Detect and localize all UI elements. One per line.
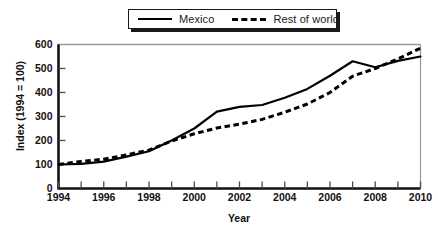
x-tick-label: 1996 [84, 191, 124, 203]
y-tick-label: 100 [23, 158, 53, 170]
x-tick-label: 2006 [310, 191, 350, 203]
x-tick-label: 2002 [220, 191, 260, 203]
x-tick-label: 1994 [39, 191, 79, 203]
x-tick-label: 2004 [265, 191, 305, 203]
y-tick-label: 600 [23, 38, 53, 50]
x-tick-label: 1998 [129, 191, 169, 203]
chart-figure: Mexico Rest of world Index (1994 = 100) … [0, 0, 438, 234]
x-tick-label: 2010 [401, 191, 438, 203]
x-tick-label: 2008 [355, 191, 395, 203]
y-tick-label: 400 [23, 86, 53, 98]
y-tick-label: 200 [23, 134, 53, 146]
y-tick-label: 500 [23, 62, 53, 74]
x-tick-label: 2000 [174, 191, 214, 203]
y-tick-label: 300 [23, 110, 53, 122]
plot-frame [57, 45, 420, 189]
